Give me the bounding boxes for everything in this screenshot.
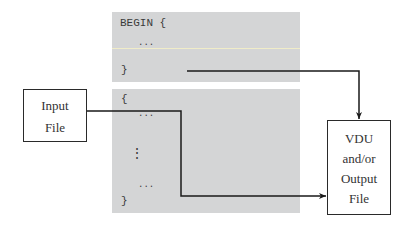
input-to-output-arrow (87, 111, 326, 196)
connector-wires (0, 0, 408, 230)
begin-to-output-arrow (187, 71, 359, 119)
